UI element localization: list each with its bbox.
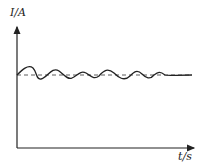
x-axis-label: t/s bbox=[178, 150, 192, 163]
current-curve bbox=[17, 67, 192, 79]
current-time-diagram bbox=[0, 0, 203, 168]
y-axis-label: I/A bbox=[10, 6, 26, 19]
